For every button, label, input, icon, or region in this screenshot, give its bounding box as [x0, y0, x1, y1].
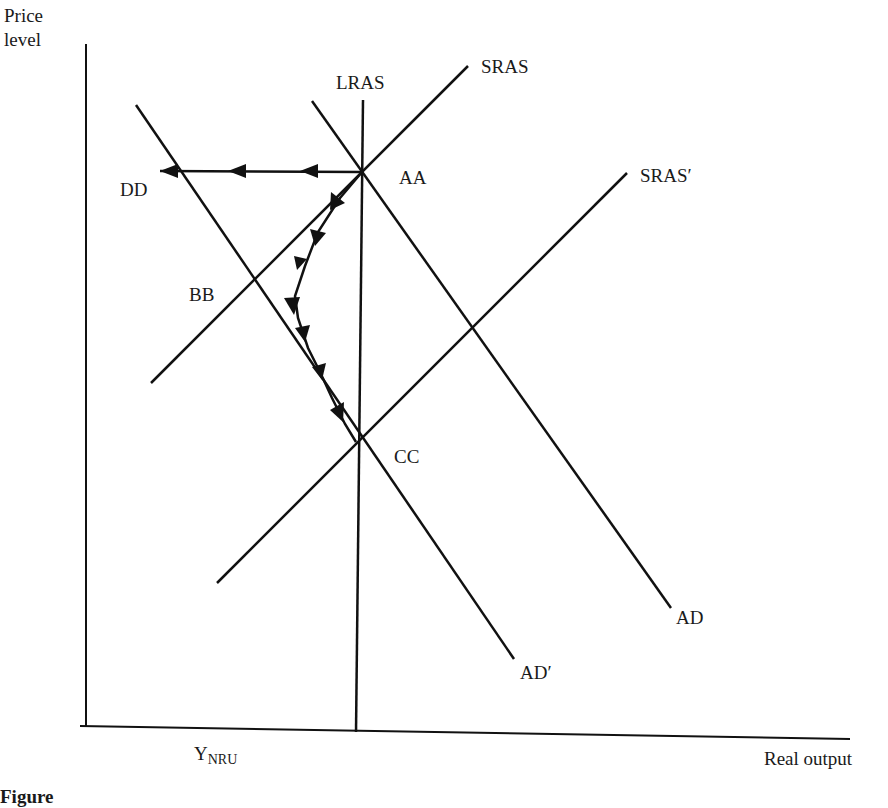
x-tick-ynru: YNRU [194, 744, 237, 767]
arrow-icon [300, 164, 318, 178]
y-axis-label-line1: Price [4, 6, 43, 25]
arrow-icon [330, 402, 344, 422]
path-aa-dd [160, 171, 362, 172]
label-ad-prime: AD′ [520, 663, 552, 682]
path-aa-cc [295, 172, 362, 442]
x-tick-sub: NRU [208, 752, 238, 767]
arrow-icon [228, 164, 246, 178]
y-axis-label-line2: level [4, 30, 41, 49]
x-axis [80, 726, 850, 739]
label-sras-prime: SRAS′ [640, 166, 692, 185]
sras-prime-line [217, 173, 627, 583]
x-axis-label: Real output [764, 749, 852, 768]
figure-caption-partial: Figure [0, 786, 53, 808]
lras-line [356, 100, 363, 732]
label-point-bb: BB [189, 285, 214, 304]
sras-line [151, 66, 468, 383]
ad-line [312, 101, 671, 608]
label-point-dd: DD [120, 180, 147, 199]
arrow-icon [160, 164, 178, 178]
x-tick-main: Y [194, 743, 208, 764]
label-lras: LRAS [336, 73, 385, 92]
label-point-aa: AA [399, 168, 426, 187]
label-ad: AD [676, 608, 703, 627]
label-point-cc: CC [394, 447, 419, 466]
label-sras: SRAS [481, 57, 529, 76]
